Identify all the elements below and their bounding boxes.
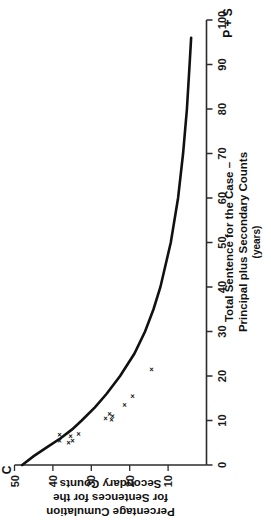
x-tick-label: 70 bbox=[215, 147, 227, 159]
x-tick-label: 0 bbox=[215, 462, 227, 468]
data-point-marker: × bbox=[104, 411, 113, 416]
data-point-marker: × bbox=[127, 393, 136, 398]
y-axis-title-line2: for Sentences for the bbox=[52, 492, 167, 504]
y-axis-symbol-label: C bbox=[0, 465, 13, 474]
x-axis-symbol-label: P + S bbox=[220, 8, 234, 37]
fitted-curve bbox=[22, 38, 191, 465]
x-tick-label: 90 bbox=[215, 58, 227, 70]
data-point-marker: × bbox=[146, 367, 155, 372]
y-tick-label: 10 bbox=[162, 475, 174, 487]
rotated-figure-container: 0102030405060708090100 1020304050 ××××××… bbox=[0, 0, 271, 520]
x-tick-label: 30 bbox=[215, 325, 227, 337]
data-point-marker: × bbox=[54, 432, 63, 437]
x-tick-label: 80 bbox=[215, 103, 227, 115]
y-tick-label: 50 bbox=[8, 475, 20, 487]
y-tick-label: 40 bbox=[46, 475, 58, 487]
x-axis-title-line2: Principal plus Secondary Counts bbox=[236, 152, 248, 332]
scatter-chart: 0102030405060708090100 1020304050 ××××××… bbox=[0, 0, 271, 520]
scatter-points-group: ××××××××××××× bbox=[54, 367, 155, 445]
plot-stage: 0102030405060708090100 1020304050 ××××××… bbox=[0, 0, 271, 520]
x-tick-label: 10 bbox=[215, 414, 227, 426]
axes-group bbox=[14, 20, 206, 465]
y-axis-title-line1: Percentage Cumulation bbox=[46, 506, 174, 518]
x-axis-title-units: (years) bbox=[250, 226, 261, 259]
x-axis-title-line1: Total Sentence for the Case – bbox=[222, 161, 234, 322]
data-point-marker: × bbox=[119, 402, 128, 407]
data-point-marker: × bbox=[54, 438, 63, 443]
x-tick-label: 20 bbox=[215, 370, 227, 382]
x-axis-title-group: Total Sentence for the Case – Principal … bbox=[222, 152, 261, 332]
data-point-marker: × bbox=[68, 438, 77, 443]
y-axis-title-group: Percentage Cumulation for Sentences for … bbox=[46, 478, 174, 518]
y-axis-title-line3: Secondary Counts bbox=[59, 478, 161, 490]
data-point-marker: × bbox=[73, 431, 82, 436]
